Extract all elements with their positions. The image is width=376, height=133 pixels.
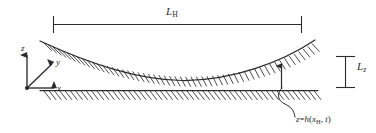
axis-label-z: z xyxy=(21,44,25,53)
label-horizontal-dimension: LH xyxy=(166,6,178,19)
upper-surface-curve xyxy=(40,40,315,81)
axis-label-y: y xyxy=(56,58,60,67)
vertical-dimension-Lz xyxy=(336,56,355,88)
equation-close-paren: ) xyxy=(328,114,331,124)
equation-leader-line xyxy=(278,88,295,117)
label-gap-equation: z=h(xH, t) xyxy=(296,115,331,125)
axis-label-x: x xyxy=(57,84,61,93)
coordinate-axes xyxy=(25,55,54,90)
label-Lz-subscript: z xyxy=(363,65,366,74)
leader-curve xyxy=(278,88,295,117)
label-vertical-dimension: Lz xyxy=(357,61,366,74)
upper-surface-hatching xyxy=(44,43,320,87)
upper-curved-surface xyxy=(40,40,319,86)
axis-y-line xyxy=(27,64,52,88)
label-LH-subscript: H xyxy=(172,10,178,19)
figure-root: LH Lz z y x z=h(xH, t) xyxy=(0,0,376,133)
